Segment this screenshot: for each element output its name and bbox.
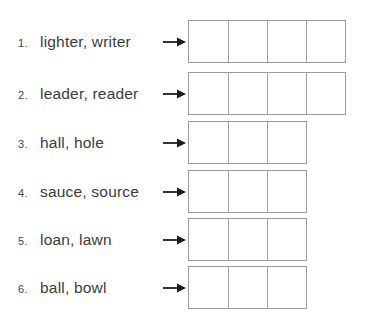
word-pair-text: loan, lawn bbox=[40, 231, 112, 249]
word-pair-text: leader, reader bbox=[40, 85, 138, 103]
row-label: 6. ball, bowl bbox=[18, 279, 107, 297]
worksheet-page: 1. lighter, writer 2. leader, reader 3. … bbox=[0, 0, 369, 334]
worksheet-row-3: 3. hall, hole bbox=[0, 121, 369, 164]
word-pair-text: ball, bowl bbox=[40, 279, 107, 297]
worksheet-row-2: 2. leader, reader bbox=[0, 72, 369, 115]
answer-cell[interactable] bbox=[189, 171, 228, 212]
answer-cell[interactable] bbox=[189, 122, 228, 163]
answer-cell[interactable] bbox=[228, 122, 267, 163]
worksheet-row-1: 1. lighter, writer bbox=[0, 20, 369, 63]
answer-cell[interactable] bbox=[267, 122, 306, 163]
answer-cell[interactable] bbox=[189, 267, 228, 308]
answer-cell[interactable] bbox=[228, 219, 267, 260]
answer-cell[interactable] bbox=[267, 73, 306, 114]
worksheet-row-5: 5. loan, lawn bbox=[0, 218, 369, 261]
row-number: 1. bbox=[18, 37, 40, 49]
row-label: 1. lighter, writer bbox=[18, 33, 131, 51]
row-label: 5. loan, lawn bbox=[18, 231, 112, 249]
arrow-right-icon bbox=[162, 137, 187, 149]
row-number: 6. bbox=[18, 283, 40, 295]
row-label: 2. leader, reader bbox=[18, 85, 138, 103]
row-number: 4. bbox=[18, 187, 40, 199]
answer-cell[interactable] bbox=[306, 73, 345, 114]
row-number: 5. bbox=[18, 235, 40, 247]
answer-cell[interactable] bbox=[228, 171, 267, 212]
answer-box-strip bbox=[188, 20, 346, 63]
answer-cell[interactable] bbox=[189, 21, 228, 62]
arrow-right-icon bbox=[162, 186, 187, 198]
answer-cell[interactable] bbox=[228, 73, 267, 114]
answer-cell[interactable] bbox=[228, 21, 267, 62]
answer-cell[interactable] bbox=[267, 219, 306, 260]
word-pair-text: lighter, writer bbox=[40, 33, 131, 51]
arrow-right-icon bbox=[162, 88, 187, 100]
answer-cell[interactable] bbox=[189, 219, 228, 260]
answer-cell[interactable] bbox=[267, 171, 306, 212]
answer-cell[interactable] bbox=[306, 21, 345, 62]
answer-cell[interactable] bbox=[267, 267, 306, 308]
row-number: 3. bbox=[18, 138, 40, 150]
row-number: 2. bbox=[18, 89, 40, 101]
answer-cell[interactable] bbox=[228, 267, 267, 308]
arrow-right-icon bbox=[162, 234, 187, 246]
answer-box-strip bbox=[188, 170, 307, 213]
answer-box-strip bbox=[188, 72, 346, 115]
arrow-right-icon bbox=[162, 282, 187, 294]
worksheet-row-4: 4. sauce, source bbox=[0, 170, 369, 213]
answer-box-strip bbox=[188, 266, 307, 309]
answer-box-strip bbox=[188, 218, 307, 261]
worksheet-row-6: 6. ball, bowl bbox=[0, 266, 369, 309]
row-label: 3. hall, hole bbox=[18, 134, 104, 152]
answer-box-strip bbox=[188, 121, 307, 164]
word-pair-text: sauce, source bbox=[40, 183, 139, 201]
row-label: 4. sauce, source bbox=[18, 183, 139, 201]
answer-cell[interactable] bbox=[267, 21, 306, 62]
word-pair-text: hall, hole bbox=[40, 134, 104, 152]
answer-cell[interactable] bbox=[189, 73, 228, 114]
arrow-right-icon bbox=[162, 36, 187, 48]
